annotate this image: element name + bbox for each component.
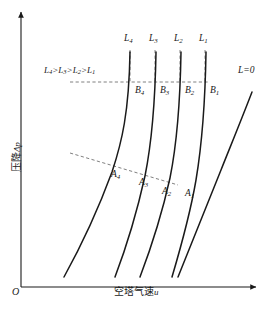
curve-L0 [178,92,252,277]
curve-label-L4: L4 [124,34,133,44]
y-axis-label-text: 压降 [11,152,22,172]
point-B2-sub: 2 [191,89,194,96]
curve-L4 [64,52,130,277]
point-label-B3: B3 [160,86,169,96]
point-label-B1: B1 [210,86,219,96]
curve-label-L2-sub: 2 [179,37,182,44]
y-axis-label: 压降Δp [12,142,22,172]
point-B3-sub: 3 [166,89,169,96]
pressure-drop-chart: L4 L3 L2 L1 L4>L3>L2>L1 L=0 B4 B3 B2 B1 … [0,0,276,313]
inequality-label: L4>L3>L2>L1 [44,66,95,76]
point-A4-sub: 4 [117,173,120,180]
ineq-L1-sub: 1 [92,68,95,75]
curve-label-L3-sub: 3 [154,37,157,44]
curve-label-L3: L3 [149,34,158,44]
point-A3-sub: 3 [145,181,148,188]
y-axis-label-symbol: Δp [12,142,22,152]
curve-label-L2: L2 [174,34,183,44]
point-label-A2: A2 [162,187,171,197]
curve-label-L4-sub: 4 [129,37,132,44]
origin-label: O [12,287,19,297]
point-A2-sub: 2 [168,190,171,197]
curve-label-L1-sub: 1 [204,37,207,44]
point-B4-sub: 4 [141,89,144,96]
x-axis-label-symbol: u [154,287,159,297]
point-label-B2: B2 [185,86,194,96]
load-line [70,153,178,185]
chart-canvas [0,0,276,313]
point-label-A3: A3 [139,178,148,188]
curve-label-L1: L1 [199,34,208,44]
point-label-A4: A4 [111,170,120,180]
point-A1-sub: 1 [191,192,194,199]
point-label-B4: B4 [135,86,144,96]
point-label-A1: A1 [185,189,194,199]
curves-group [64,52,252,277]
x-axis-label: 空塔气速u [114,287,159,297]
curve-label-L0: L=0 [238,66,254,76]
axes-group [21,12,256,287]
point-B1-sub: 1 [216,89,219,96]
x-axis-label-text: 空塔气速 [114,286,154,297]
